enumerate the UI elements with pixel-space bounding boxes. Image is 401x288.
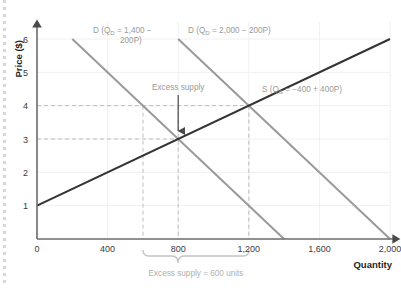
demand-curve-1-label-suffix: = 1,400 −	[115, 26, 152, 35]
y-tick-4: 4	[23, 101, 28, 111]
x-tick-0: 0	[34, 244, 39, 254]
supply-curve-label-prefix: S (Q	[262, 85, 279, 94]
axes	[37, 26, 394, 239]
y-tick-2: 2	[23, 168, 28, 178]
x-tick-1200: 1,200	[238, 244, 261, 254]
x-tick-1600: 1,600	[308, 244, 331, 254]
excess-supply-annotation-label: Excess supply	[152, 83, 205, 92]
demand-curve-1-label-prefix: D (Q	[93, 26, 110, 35]
demand-curve-2-label: D (QD = 2,000 − 200P)	[188, 26, 271, 36]
demand-curve-2-label-prefix: D (Q	[188, 26, 205, 35]
excess-supply-bracket	[143, 250, 249, 263]
chart-canvas: 1 2 3 4 5 6 0 400 800 1,200 1,600 2,000 …	[0, 0, 401, 288]
y-tick-3: 3	[23, 135, 28, 145]
supply-demand-chart: 1 2 3 4 5 6 0 400 800 1,200 1,600 2,000 …	[0, 0, 401, 288]
x-tick-2000: 2,000	[379, 244, 401, 254]
demand-curve-1-label-line2: 200P)	[120, 36, 142, 45]
x-tick-800: 800	[171, 244, 186, 254]
supply-curve-label-suffix: = −400 + 400P)	[283, 85, 342, 94]
demand-curve-1-label: D (QD = 1,400 −	[93, 26, 152, 36]
decorative-dot-rail	[3, 0, 8, 288]
x-tick-400: 400	[100, 244, 115, 254]
x-axis-title: Quantity	[353, 259, 392, 270]
excess-supply-bracket-label: Excess supply = 600 units	[149, 269, 244, 278]
demand-curve-2-label-suffix: = 2,000 − 200P)	[210, 26, 271, 35]
y-tick-1: 1	[23, 201, 28, 211]
supply-curve	[37, 39, 390, 206]
supply-curve-label: S (QS = −400 + 400P)	[262, 85, 342, 95]
y-axis-title: Price ($)	[13, 40, 24, 78]
